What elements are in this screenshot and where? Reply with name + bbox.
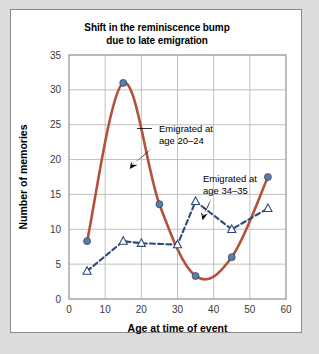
x-tick-label: 30 [172,304,184,315]
y-tick-label: 20 [50,154,62,165]
y-tick-label: 25 [50,119,62,130]
x-tick-label: 10 [100,304,112,315]
y-tick-label: 15 [50,189,62,200]
x-axis-title: Age at time of event [128,322,228,334]
y-axis-title: Number of memories [17,124,29,229]
y-tick-label: 5 [55,259,61,270]
data-point-marker-circle [228,254,235,261]
data-point-marker-circle [264,174,271,181]
y-tick-label: 30 [50,84,62,95]
x-tick-label: 40 [208,304,220,315]
y-tick-label: 10 [50,224,62,235]
figure-panel: Shift in the reminiscence bump due to la… [10,9,302,333]
annotation-1-line-2: age 20–24 [159,135,204,146]
x-tick-label: 20 [136,304,148,315]
annotation-2-line-2: age 34–35 [203,185,248,196]
data-point-marker-circle [120,79,127,86]
data-point-marker-circle [156,201,163,208]
chart-plot: 0102030405060 05101520253035 Emigrated a… [11,10,303,334]
data-point-marker-circle [192,272,199,279]
y-tick-label: 0 [55,294,61,305]
annotation-1-line-1: Emigrated at [159,123,213,134]
x-tick-label: 0 [66,304,72,315]
annotation-2-line-1: Emigrated at [203,173,257,184]
x-axis-tick-labels: 0102030405060 [66,304,292,315]
x-tick-label: 50 [244,304,256,315]
y-axis-tick-labels: 05101520253035 [50,50,62,305]
data-point-marker-circle [84,238,91,245]
y-tick-label: 35 [50,50,62,61]
x-tick-label: 60 [280,304,292,315]
